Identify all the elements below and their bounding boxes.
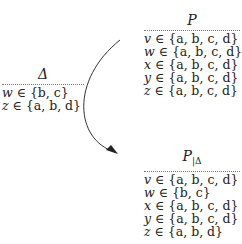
delta-block: Δ w ∈ {b, c} z ∈ {a, b, d} (2, 66, 84, 112)
p-restricted-title: P|Δ (144, 148, 240, 169)
p-restricted-row: z ∈ {a, b, d} (144, 225, 240, 238)
p-restricted-block: P|Δ v ∈ {a, b, c, d} w ∈ {b, c} x ∈ {a, … (144, 148, 240, 238)
p-title: P (144, 12, 240, 28)
p-row: z ∈ {a, b, c, d} (144, 84, 240, 97)
p-block: P v ∈ {a, b, c, d} w ∈ {a, b, c, d} x ∈ … (144, 12, 240, 97)
delta-title: Δ (2, 66, 84, 82)
delta-row: z ∈ {a, b, d} (2, 99, 84, 112)
